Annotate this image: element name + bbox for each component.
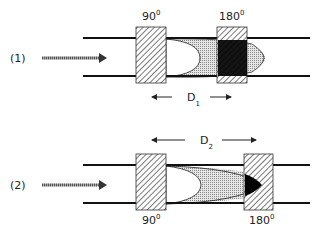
- svg-text:D1: D1: [187, 91, 200, 108]
- panel-label: (2): [10, 179, 26, 192]
- angle-label-180: 1800: [249, 213, 274, 227]
- panel-1: (1) 900 1800 D1: [10, 9, 310, 108]
- angle-label-90: 900: [142, 213, 160, 227]
- panel-label: (1): [10, 52, 26, 65]
- coil-90: [136, 154, 166, 210]
- distance-d2: D2: [152, 134, 256, 151]
- distance-d1: D1: [152, 91, 231, 108]
- coil-90: [136, 27, 166, 83]
- flow-diagram: (1) 900 1800 D1 (2): [0, 0, 317, 230]
- angle-label-90: 900: [142, 9, 160, 23]
- panel-2: (2) 900 1800 D2: [10, 134, 310, 227]
- flow-arrow-icon: [42, 180, 107, 190]
- flow-arrow-icon: [42, 53, 107, 63]
- angle-label-180: 1800: [219, 9, 244, 23]
- svg-text:D2: D2: [200, 134, 213, 151]
